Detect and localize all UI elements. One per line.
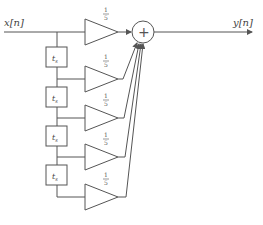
svg-text:5: 5 (104, 139, 108, 146)
gain-amplifier-2: 1 5 (85, 53, 118, 92)
sum-input-wire (118, 43, 137, 79)
gain-amplifier-3: 1 5 (85, 92, 118, 131)
output-label: y[n] (232, 17, 253, 28)
plus-icon: + (138, 24, 150, 40)
svg-text:1: 1 (104, 92, 108, 99)
svg-text:5: 5 (104, 14, 108, 21)
gain-amplifier-4: 1 5 (85, 131, 118, 170)
svg-text:1: 1 (104, 6, 108, 13)
svg-text:1: 1 (104, 131, 108, 138)
summing-node: + (132, 21, 154, 43)
delay-block-4: ts (46, 165, 67, 185)
fir-filter-diagram: x[n] ts ts ts ts 1 5 1 5 1 (0, 0, 263, 225)
svg-text:1: 1 (104, 171, 108, 178)
input-label: x[n] (4, 17, 24, 28)
svg-text:5: 5 (104, 61, 108, 68)
svg-text:1: 1 (104, 53, 108, 60)
delay-block-1: ts (46, 47, 67, 67)
gain-amplifier-5: 1 5 (85, 171, 118, 210)
delay-block-3: ts (46, 126, 67, 146)
svg-text:5: 5 (104, 100, 108, 107)
svg-text:5: 5 (104, 179, 108, 186)
delay-block-2: ts (46, 87, 67, 107)
gain-amplifier-1: 1 5 (85, 6, 118, 45)
